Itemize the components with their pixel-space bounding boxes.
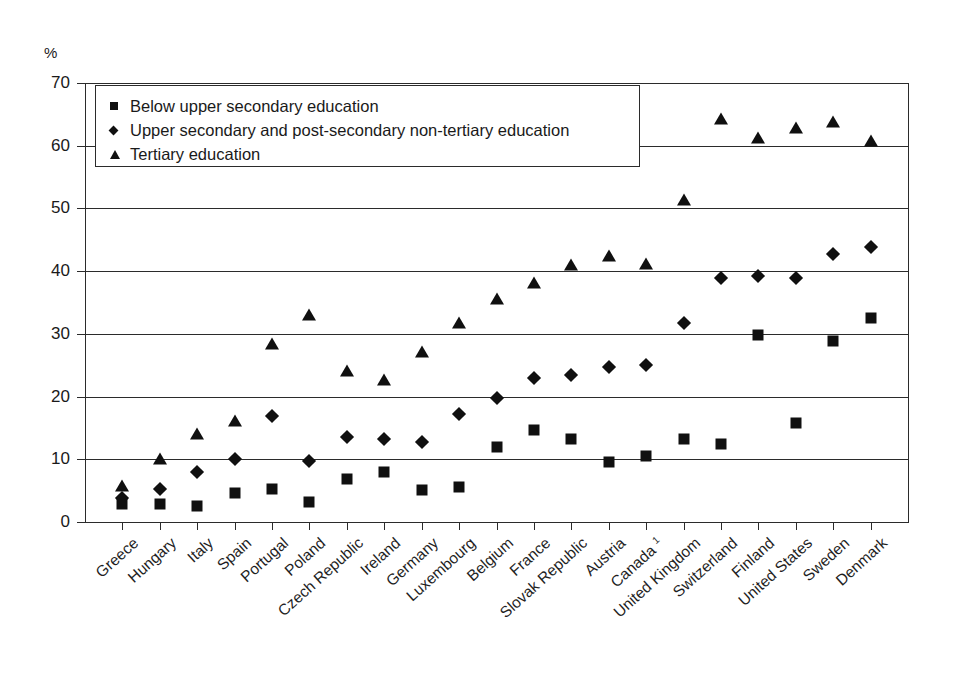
gridline [85,459,908,460]
data-point-triangle [190,428,204,440]
plot-right-border [908,83,909,523]
x-axis-tick [721,522,722,530]
data-point-triangle [826,115,840,127]
diamond-marker-icon [110,127,130,134]
data-point-square [641,450,652,461]
data-point-triangle [864,134,878,146]
data-point-square [715,439,726,450]
data-point-square [454,481,465,492]
gridline [85,334,908,335]
y-axis-tick-label: 40 [32,262,70,279]
legend-item-label: Upper secondary and post-secondary non-t… [130,121,569,140]
x-axis-tick [609,522,610,530]
data-point-triangle [452,317,466,329]
data-point-triangle [527,276,541,288]
data-point-square [790,417,801,428]
y-axis-tick-label: 50 [32,199,70,216]
y-axis-unit-label: % [44,44,58,61]
y-axis-tick-label: 20 [32,388,70,405]
data-point-square [341,473,352,484]
x-axis-tick [272,522,273,530]
x-axis-tick [871,522,872,530]
data-point-square [192,500,203,511]
x-axis-tick [534,522,535,530]
x-axis-tick [497,522,498,530]
gridline [85,271,908,272]
x-axis-tick [758,522,759,530]
data-point-square [491,441,502,452]
data-point-square [678,434,689,445]
legend-item-tertiary: Tertiary education [110,142,639,166]
data-point-triangle [415,345,429,357]
data-point-triangle [490,293,504,305]
data-point-square [416,485,427,496]
data-point-square [828,336,839,347]
y-axis-tick [77,522,86,523]
y-axis-tick-label: 10 [32,450,70,467]
x-axis-tick [235,522,236,530]
data-point-triangle [340,365,354,377]
chart-figure: % 010203040506070 GreeceHungaryItalySpai… [0,0,956,673]
x-axis-tick [197,522,198,530]
legend-item-label: Tertiary education [130,145,260,164]
x-axis-tick [646,522,647,530]
y-axis-tick-label: 60 [32,137,70,154]
data-point-triangle [751,132,765,144]
chart-legend: Below upper secondary education Upper se… [95,85,640,167]
data-point-triangle [789,122,803,134]
data-point-square [304,496,315,507]
gridline [85,83,908,84]
x-axis-tick [459,522,460,530]
x-axis-tick [160,522,161,530]
y-axis-tick-label: 70 [32,74,70,91]
data-point-square [229,488,240,499]
data-point-triangle [302,308,316,320]
data-point-square [379,466,390,477]
data-point-triangle [228,414,242,426]
data-point-square [865,313,876,324]
data-point-square [566,433,577,444]
gridline [85,208,908,209]
square-marker-icon [110,102,130,110]
y-axis-tick-label: 30 [32,325,70,342]
data-point-triangle [265,337,279,349]
legend-item-label: Below upper secondary education [130,97,379,116]
x-axis-tick [422,522,423,530]
data-point-triangle [153,452,167,464]
x-axis-tick [684,522,685,530]
x-axis-tick [122,522,123,530]
legend-item-upper-secondary: Upper secondary and post-secondary non-t… [110,118,639,142]
data-point-triangle [377,374,391,386]
x-axis-tick [384,522,385,530]
data-point-triangle [115,479,129,491]
data-point-triangle [677,193,691,205]
data-point-square [154,498,165,509]
data-point-square [753,330,764,341]
data-point-square [528,424,539,435]
data-point-square [267,484,278,495]
x-axis-tick [796,522,797,530]
x-axis-tick [347,522,348,530]
triangle-marker-icon [110,150,130,159]
x-axis-tick [309,522,310,530]
data-point-square [603,457,614,468]
data-point-triangle [602,249,616,261]
data-point-triangle [564,258,578,270]
x-axis-tick-label: Italy [184,534,217,566]
y-axis-tick-label: 0 [32,513,70,530]
legend-item-below-upper-secondary: Below upper secondary education [110,94,639,118]
data-point-triangle [714,113,728,125]
x-axis-tick [571,522,572,530]
data-point-triangle [639,258,653,270]
x-axis-tick [833,522,834,530]
